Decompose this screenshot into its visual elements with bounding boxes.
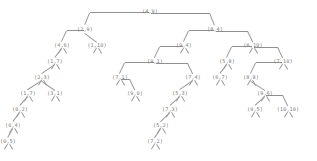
tree-node-n25: (0,4) — [5, 122, 21, 128]
tree-leaf-stub-right — [221, 80, 225, 85]
tree-leaf-stub-right — [56, 96, 60, 101]
tree-edge-horizontal — [151, 13, 210, 14]
tree-leaf-stub-right — [228, 64, 232, 69]
tree-edge-diagonal — [247, 31, 253, 42]
tree-leaf-stub-left — [93, 48, 97, 53]
tree-leaf-stub-left — [180, 48, 184, 53]
tree-leaf-stub-right — [254, 48, 258, 53]
tree-edge-diagonal — [154, 47, 160, 58]
tree-edge-diagonal — [85, 33, 97, 42]
tree-node-n17: (3,1) — [47, 90, 63, 96]
tree-node-n10: (7,10) — [273, 58, 292, 64]
tree-edge-diagonal — [282, 95, 288, 106]
tree-node-n7: (1,7) — [47, 58, 63, 64]
tree-node-n22: (7,3) — [162, 106, 178, 112]
tree-node-n6: (6,10) — [243, 42, 262, 48]
tree-leaf-stub-right — [136, 96, 140, 101]
tree-node-n11: (2,3) — [34, 74, 50, 80]
tree-node-n19: (5,3) — [172, 90, 188, 96]
tree-node-n23: (9,5) — [247, 106, 263, 112]
tree-leaf-stub-left — [216, 80, 220, 85]
tree-edge-horizontal — [90, 12, 149, 13]
tree-node-n28: (7,2) — [147, 138, 163, 144]
tree-edge-diagonal — [250, 63, 256, 74]
tree-leaf-stub-left — [247, 80, 251, 85]
tree-leaf-stub-right — [256, 112, 260, 117]
tree-leaf-stub-right — [98, 48, 102, 53]
tree-leaf-stub-left — [261, 96, 265, 101]
tree-leaf-stub-left — [151, 144, 155, 149]
tree-node-n27: (0,5) — [0, 138, 16, 144]
tree-leaf-stub-right — [63, 48, 67, 53]
tree-leaf-stub-left — [251, 112, 255, 117]
tree-leaf-stub-left — [166, 112, 170, 117]
tree-leaf-stub-right — [121, 80, 125, 85]
tree-node-n16: (1,7) — [20, 90, 36, 96]
tree-leaf-stub-right — [9, 144, 13, 149]
tree-leaf-stub-left — [51, 96, 55, 101]
tree-leaf-stub-right — [171, 112, 175, 117]
tree-leaf-stub-right — [14, 128, 18, 133]
tree-node-n24: (10,10) — [277, 106, 300, 112]
tree-edge-diagonal — [119, 63, 125, 74]
tree-node-n2: (8,4) — [207, 26, 223, 32]
tree-node-n14: (6,7) — [212, 74, 228, 80]
tree-node-n12: (7,1) — [112, 74, 128, 80]
tree-leaf-stub-right — [266, 96, 270, 101]
tree-leaf-stub-left — [116, 80, 120, 85]
tree-leaf-stub-left — [131, 96, 135, 101]
tree-edge-diagonal — [226, 47, 232, 58]
binary-tree-diagram: (4,9)(2,9)(8,4)(4,6)(1,10)(9,4)(6,10)(1,… — [0, 0, 317, 161]
tree-node-n4: (1,10) — [87, 42, 106, 48]
tree-leaf-stub-left — [176, 96, 180, 101]
tree-leaf-stub-left — [38, 80, 42, 85]
tree-edge-diagonal — [209, 13, 215, 26]
tree-leaf-stub-right — [289, 112, 293, 117]
tree-leaf-stub-left — [189, 80, 193, 85]
tree-leaf-stub-left — [284, 112, 288, 117]
tree-edge-diagonal — [183, 31, 189, 42]
tree-node-n13: (7,4) — [185, 74, 201, 80]
tree-edge-diagonal — [187, 63, 193, 74]
tree-edge-diagonal — [84, 13, 90, 26]
tree-leaf-stub-left — [279, 64, 283, 69]
tree-leaf-stub-right — [284, 64, 288, 69]
tree-leaf-stub-right — [21, 112, 25, 117]
tree-node-n0: (4,9) — [142, 8, 158, 14]
tree-leaf-stub-right — [162, 128, 166, 133]
tree-node-n15: (8,8) — [243, 74, 259, 80]
tree-node-n5: (9,4) — [176, 42, 192, 48]
tree-node-n1: (2,9) — [77, 26, 93, 32]
tree-node-n20: (9,6) — [257, 90, 273, 96]
tree-leaf-stub-left — [249, 48, 253, 53]
tree-edge-diagonal — [277, 47, 283, 58]
tree-leaf-stub-left — [51, 64, 55, 69]
tree-node-n9: (5,8) — [219, 58, 235, 64]
tree-node-n3: (4,6) — [54, 42, 70, 48]
tree-leaf-stub-right — [29, 96, 33, 101]
tree-leaf-stub-right — [56, 64, 60, 69]
tree-edge-diagonal — [61, 31, 67, 42]
tree-leaf-stub-right — [156, 144, 160, 149]
tree-leaf-stub-right — [194, 80, 198, 85]
tree-node-n21: (0,2) — [12, 106, 28, 112]
tree-leaf-stub-right — [185, 48, 189, 53]
tree-edge-diagonal — [129, 79, 135, 90]
tree-leaf-stub-right — [181, 96, 185, 101]
tree-leaf-stub-left — [4, 144, 8, 149]
tree-node-n8: (9,1) — [147, 58, 163, 64]
tree-node-n26: (5,2) — [153, 122, 169, 128]
tree-node-n18: (9,0) — [127, 90, 143, 96]
